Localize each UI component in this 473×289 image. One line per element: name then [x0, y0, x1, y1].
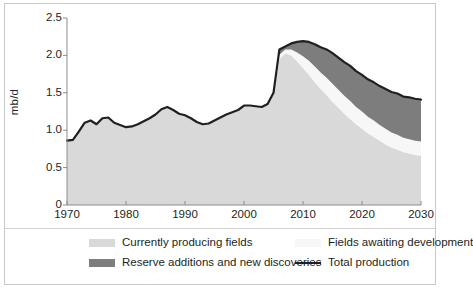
legend-swatch-fields-awaiting-development [295, 239, 321, 247]
legend-label-total-production: Total production [328, 257, 409, 269]
x-axis-tick-label: 2020 [339, 208, 385, 220]
legend-label-fields-awaiting-development: Fields awaiting development [328, 237, 473, 249]
legend-item-reserve-additions-and-new-discoveries[interactable]: Reserve additions and new discoveries [89, 254, 321, 272]
legend-label-currently-producing-fields: Currently producing fields [122, 237, 252, 249]
legend-label-reserve-additions-and-new-discoveries: Reserve additions and new discoveries [122, 257, 321, 269]
legend-swatch-currently-producing-fields [89, 239, 115, 247]
legend-swatch-reserve-additions-and-new-discoveries [89, 259, 115, 267]
legend-item-currently-producing-fields[interactable]: Currently producing fields [89, 234, 252, 252]
y-axis-tick-labels: 2.52.01.51.00.50 [26, 0, 62, 210]
x-axis-tick-label: 1990 [162, 208, 208, 220]
y-axis-title: mb/d [8, 72, 20, 132]
y-axis-tick-label: 0.5 [28, 161, 62, 173]
legend-line-total-production [295, 262, 321, 264]
y-axis-tick-label: 1.5 [28, 86, 62, 98]
legend-item-fields-awaiting-development[interactable]: Fields awaiting development [295, 234, 473, 252]
x-axis-tick-label: 1970 [44, 208, 90, 220]
legend-divider [5, 228, 435, 229]
legend-item-total-production[interactable]: Total production [295, 254, 409, 272]
x-axis-tick-label: 1980 [103, 208, 149, 220]
x-axis-tick-label: 2030 [398, 208, 444, 220]
chart-legend: Currently producing fields Fields awaiti… [5, 232, 435, 282]
x-axis-tick-label: 2010 [280, 208, 326, 220]
y-axis-tick-label: 2.0 [28, 48, 62, 60]
y-axis-tick-label: 2.5 [28, 11, 62, 23]
x-axis-tick-label: 2000 [221, 208, 267, 220]
y-axis-tick-label: 1.0 [28, 123, 62, 135]
